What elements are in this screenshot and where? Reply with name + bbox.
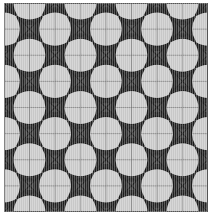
star-motif <box>119 16 144 41</box>
star-motif <box>144 147 169 172</box>
star-motif <box>93 43 118 68</box>
star-motif <box>17 173 42 198</box>
star-motif <box>42 147 67 172</box>
star-motif <box>144 95 169 120</box>
star-motif <box>68 69 93 94</box>
star-motif <box>119 69 144 94</box>
tiling-pattern-svg <box>4 3 208 212</box>
star-motif <box>119 121 144 146</box>
star-motif <box>17 121 42 146</box>
star-motif <box>68 121 93 146</box>
star-motif <box>68 173 93 198</box>
star-motif <box>68 16 93 41</box>
star-motif <box>170 69 195 94</box>
star-motif <box>17 69 42 94</box>
star-motif <box>93 95 118 120</box>
star-motif <box>144 43 169 68</box>
star-motif <box>42 43 67 68</box>
tiling-pattern-figure <box>4 3 208 212</box>
star-motif <box>170 16 195 41</box>
star-motif <box>170 173 195 198</box>
star-motif <box>17 16 42 41</box>
star-motif <box>170 121 195 146</box>
star-motif <box>42 95 67 120</box>
star-motif <box>119 173 144 198</box>
pattern-canvas <box>0 0 218 223</box>
star-motif <box>93 147 118 172</box>
